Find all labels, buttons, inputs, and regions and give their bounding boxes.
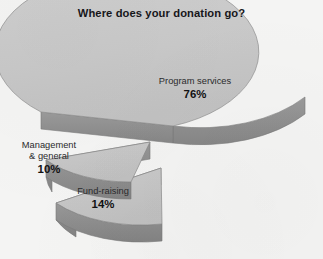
pie-chart-graphic (0, 0, 323, 259)
chart-title: Where does your donation go? (0, 7, 323, 19)
pie-chart-figure: Where does your donation go? (0, 0, 323, 259)
pie-slice-program-services[interactable] (0, 0, 305, 145)
